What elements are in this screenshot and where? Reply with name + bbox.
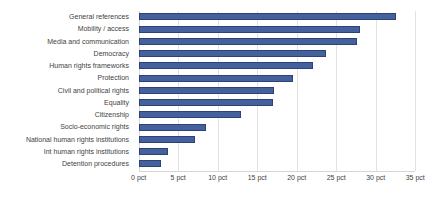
bar-row bbox=[139, 72, 416, 84]
bar bbox=[139, 160, 161, 167]
x-tick-label: 25 pct bbox=[327, 174, 346, 181]
bar bbox=[139, 26, 360, 33]
bar-row bbox=[139, 60, 416, 72]
x-axis-line bbox=[139, 171, 416, 172]
category-label: Int human rights institutions bbox=[44, 146, 129, 158]
bar-row bbox=[139, 121, 416, 133]
bar-row bbox=[139, 85, 416, 97]
category-label: National human rights institutions bbox=[26, 134, 129, 146]
category-label: General references bbox=[69, 11, 129, 23]
bar bbox=[139, 124, 206, 131]
bar bbox=[139, 87, 274, 94]
bar bbox=[139, 38, 357, 45]
bar-row bbox=[139, 134, 416, 146]
bar bbox=[139, 136, 195, 143]
bar-row bbox=[139, 109, 416, 121]
x-tick-label: 15 pct bbox=[248, 174, 267, 181]
plot-area bbox=[139, 11, 416, 171]
category-label: Socio-economic rights bbox=[60, 121, 129, 133]
category-label: Democracy bbox=[94, 48, 129, 60]
bar bbox=[139, 13, 397, 20]
x-axis-tick-labels: 0 pct5 pct10 pct15 pct20 pct25 pct30 pct… bbox=[0, 174, 435, 188]
category-label: Equality bbox=[104, 97, 129, 109]
category-label: Detention procedures bbox=[62, 158, 129, 170]
x-tick-label: 30 pct bbox=[366, 174, 385, 181]
bar bbox=[139, 99, 273, 106]
category-label: Protection bbox=[97, 72, 129, 84]
bar bbox=[139, 50, 326, 57]
gridline-35 bbox=[415, 11, 416, 171]
x-tick-label: 0 pct bbox=[131, 174, 146, 181]
x-tick-label: 5 pct bbox=[171, 174, 186, 181]
bar-chart: General referencesMobility / accessMedia… bbox=[0, 0, 435, 203]
x-tick-label: 35 pct bbox=[406, 174, 425, 181]
bar-row bbox=[139, 23, 416, 35]
bar-row bbox=[139, 36, 416, 48]
bar bbox=[139, 62, 314, 69]
category-axis-labels: General referencesMobility / accessMedia… bbox=[0, 11, 134, 171]
x-tick-label: 10 pct bbox=[208, 174, 227, 181]
category-label: Citizenship bbox=[95, 109, 129, 121]
category-label: Human rights frameworks bbox=[49, 60, 129, 72]
bar bbox=[139, 111, 242, 118]
bar-row bbox=[139, 146, 416, 158]
bar bbox=[139, 75, 293, 82]
bar-row bbox=[139, 97, 416, 109]
bar bbox=[139, 148, 168, 155]
bar-row bbox=[139, 158, 416, 170]
category-label: Media and communication bbox=[47, 36, 129, 48]
category-label: Mobility / access bbox=[78, 23, 129, 35]
bar-row bbox=[139, 48, 416, 60]
x-tick-label: 20 pct bbox=[287, 174, 306, 181]
bar-row bbox=[139, 11, 416, 23]
category-label: Civil and political rights bbox=[58, 85, 129, 97]
